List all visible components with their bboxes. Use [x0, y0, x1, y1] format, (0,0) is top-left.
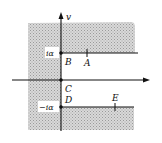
point-C-dot: [59, 78, 63, 82]
label-A: A: [83, 58, 91, 68]
arrow-up-icon: [59, 12, 64, 19]
point-D-dot: [59, 105, 63, 109]
shaded-region: [28, 22, 135, 130]
label-i-alpha: iα: [45, 47, 59, 58]
axis-label-v: v: [66, 12, 71, 22]
svg-text:iα: iα: [46, 49, 55, 58]
label-E: E: [111, 93, 119, 103]
label-minus-i-alpha: −iα: [38, 101, 59, 112]
point-B-dot: [59, 51, 63, 55]
arrow-right-icon: [143, 78, 150, 83]
label-D: D: [64, 95, 72, 105]
label-C: C: [65, 84, 72, 94]
diagram-canvas: v iα −iα B A C D E: [0, 0, 162, 143]
svg-text:−iα: −iα: [39, 103, 54, 112]
label-B: B: [64, 57, 72, 67]
